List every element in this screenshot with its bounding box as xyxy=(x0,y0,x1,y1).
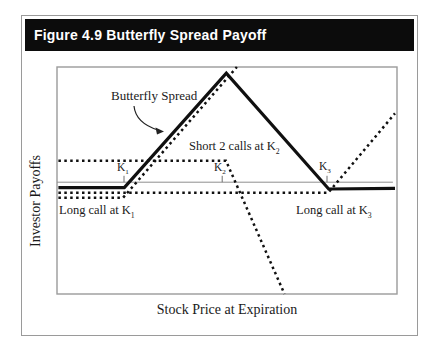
x-axis-label: Stock Price at Expiration xyxy=(117,302,337,317)
long-call-k3-label: Long call at K3 xyxy=(296,204,372,218)
strike-k1-label-sub: 1 xyxy=(125,168,129,176)
short-2-calls-label-sub: 2 xyxy=(276,147,280,156)
long-call-k1-label-sub: 1 xyxy=(131,211,135,220)
long-call-k3-label-sub: 3 xyxy=(368,211,372,220)
strike-k2-label: K2 xyxy=(214,161,226,174)
short-2-calls-label-text: Short 2 calls at K xyxy=(189,139,276,153)
long-call-k3-label-text: Long call at K xyxy=(296,203,368,217)
strike-k1-label: K1 xyxy=(117,161,129,174)
series-long-call-k1 xyxy=(58,67,237,198)
strike-k3-label-sub: 3 xyxy=(327,167,331,175)
butterfly-spread-label-text: Butterfly Spread xyxy=(111,88,197,103)
short-2-calls-label: Short 2 calls at K2 xyxy=(189,140,280,154)
plot-frame xyxy=(57,67,397,294)
strike-k3-label: K3 xyxy=(319,160,331,173)
butterfly-spread-label: Butterfly Spread xyxy=(111,89,197,103)
series-short-2-calls-k2 xyxy=(58,161,284,294)
y-axis-label: Investor Payoffs xyxy=(28,101,44,301)
long-call-k1-label: Long call at K1 xyxy=(59,204,135,218)
annotation-arrow xyxy=(134,106,158,130)
long-call-k1-label-text: Long call at K xyxy=(59,203,131,217)
annotation-arrowhead-icon xyxy=(156,128,165,135)
strike-k2-label-sub: 2 xyxy=(222,168,226,176)
page: Figure 4.9 Butterfly Spread Payoff Butte… xyxy=(0,0,437,355)
